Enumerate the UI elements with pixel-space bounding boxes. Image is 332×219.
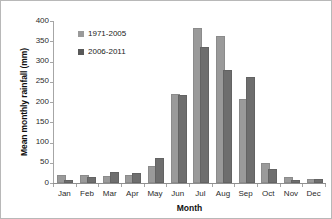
rainfall-bar-chart-figure: Mean monthly rainfall (mm) 4003503002502…: [0, 0, 332, 219]
legend-item-1[interactable]: 1971-2005: [78, 26, 126, 41]
bar-group: [302, 21, 325, 183]
x-axis-label-dec: Dec: [302, 189, 325, 198]
bar-dec-series2: [314, 179, 323, 183]
y-axis-tick-label: 50: [40, 157, 49, 166]
x-axis-label-oct: Oct: [257, 189, 280, 198]
bar-group: [189, 21, 212, 183]
x-axis-tick-mark: [280, 184, 281, 187]
y-axis-tick-label: 150: [36, 117, 49, 126]
x-axis-tick-mark: [121, 184, 122, 187]
bar-group: [144, 21, 167, 183]
x-axis-label-jul: Jul: [189, 189, 212, 198]
x-axis-tick-mark: [144, 184, 145, 187]
x-axis-tick-mark: [325, 184, 326, 187]
x-axis-label-jan: Jan: [53, 189, 76, 198]
bar-group: [53, 21, 76, 183]
legend-label: 1971-2005: [88, 29, 126, 38]
x-axis-tick-mark: [53, 184, 54, 187]
bar-mar-series2: [110, 172, 119, 183]
x-axis-label-mar: Mar: [98, 189, 121, 198]
chart-legend: 1971-20052006-2011: [78, 26, 126, 62]
bar-may-series2: [155, 158, 164, 183]
bar-jan-series2: [64, 180, 73, 183]
bar-feb-series2: [87, 177, 96, 183]
x-axis-label-sep: Sep: [234, 189, 257, 198]
x-axis-tick-mark: [234, 184, 235, 187]
legend-label: 2006-2011: [88, 47, 126, 56]
bar-group: [234, 21, 257, 183]
legend-swatch-icon: [78, 31, 84, 37]
x-axis-label-jun: Jun: [166, 189, 189, 198]
x-axis-tick-mark: [76, 184, 77, 187]
bar-oct-series2: [268, 169, 277, 183]
bar-nov-series2: [291, 180, 300, 183]
y-axis-tick-label: 0: [45, 178, 49, 187]
x-axis-title: Month: [53, 203, 326, 213]
x-axis-label-apr: Apr: [121, 189, 144, 198]
legend-item-2[interactable]: 2006-2011: [78, 44, 126, 59]
y-axis-tick-label: 350: [36, 36, 49, 45]
x-axis-tick-mark: [166, 184, 167, 187]
x-axis-label-aug: Aug: [212, 189, 235, 198]
x-axis-tick-mark: [257, 184, 258, 187]
bar-apr-series2: [132, 173, 141, 184]
bar-group: [257, 21, 280, 183]
y-axis-title: Mean monthly rainfall (mm): [19, 17, 29, 187]
bar-group: [280, 21, 303, 183]
y-axis-tick-label: 300: [36, 56, 49, 65]
bar-jun-series2: [178, 95, 187, 183]
x-axis-tick-mark: [98, 184, 99, 187]
y-axis-tick-label: 100: [36, 137, 49, 146]
x-axis-label-nov: Nov: [280, 189, 303, 198]
bar-aug-series2: [223, 70, 232, 183]
x-axis-label-may: May: [144, 189, 167, 198]
x-axis-tick-mark: [212, 184, 213, 187]
y-axis-tick-label: 250: [36, 76, 49, 85]
x-axis-label-feb: Feb: [76, 189, 99, 198]
bar-group: [166, 21, 189, 183]
bar-group: [212, 21, 235, 183]
x-axis-tick-mark: [302, 184, 303, 187]
y-axis-tick-label: 200: [36, 97, 49, 106]
x-axis-tick-mark: [189, 184, 190, 187]
bar-jul-series2: [200, 47, 209, 183]
y-axis-tick-label: 400: [36, 16, 49, 25]
legend-swatch-icon: [78, 49, 84, 55]
bar-sep-series2: [246, 77, 255, 183]
